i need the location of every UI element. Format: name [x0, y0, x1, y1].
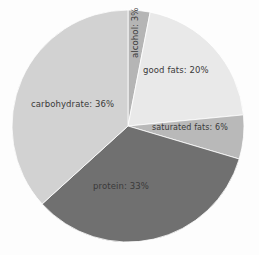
pie-slice-group: [12, 10, 244, 242]
pie-chart-figure: alcohol: 3% good fats: 20% saturated fat…: [0, 0, 259, 255]
pie-chart-svg: [0, 0, 259, 255]
